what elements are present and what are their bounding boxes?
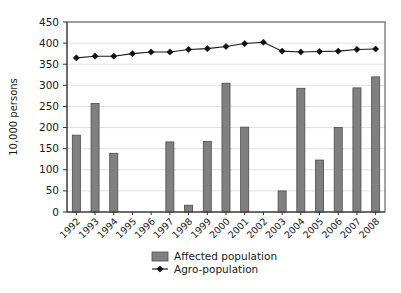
y-tick-label: 300	[39, 79, 59, 91]
bar-2008	[372, 77, 380, 212]
y-tick-label: 200	[39, 121, 59, 133]
bar-1994	[110, 153, 118, 212]
legend-label-affected-population: Affected population	[174, 250, 277, 262]
y-tick-label: 250	[39, 100, 59, 112]
bar-2003	[278, 191, 286, 212]
y-tick-label: 150	[39, 142, 59, 154]
bar-1993	[91, 103, 99, 212]
bar-2000	[222, 83, 230, 212]
legend-label-agro-population: Agro-population	[174, 263, 258, 275]
y-tick-label: 100	[39, 163, 59, 175]
bar-1999	[203, 141, 211, 212]
y-axis-title-group: 10,000 persons	[8, 78, 19, 156]
chart-canvas: 050100150200250300350400450 199219931994…	[0, 0, 401, 293]
y-tick-label: 400	[39, 37, 59, 49]
bar-1998	[185, 205, 193, 212]
chart-figure: 050100150200250300350400450 199219931994…	[0, 0, 401, 293]
bar-1992	[72, 135, 80, 212]
y-tick-label: 50	[46, 184, 59, 196]
bar-2004	[297, 88, 305, 212]
y-tick-label: 350	[39, 58, 59, 70]
legend-swatch-affected-population	[152, 252, 168, 261]
bar-2007	[353, 88, 361, 212]
y-tick-label: 450	[39, 16, 59, 28]
y-axis-title: 10,000 persons	[8, 78, 19, 156]
bar-2001	[241, 127, 249, 212]
bar-1997	[166, 142, 174, 212]
bar-2006	[334, 128, 342, 212]
y-tick-label: 0	[52, 206, 59, 218]
bar-2005	[316, 160, 324, 212]
